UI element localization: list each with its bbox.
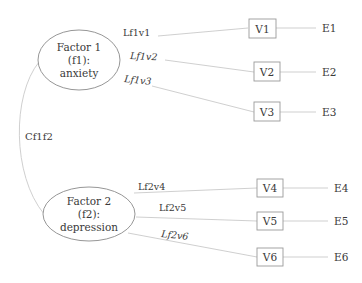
loading-edge-f2-v5 [136,217,257,221]
factor-label-line-2: (f2): [78,208,100,220]
variable-node-v4: V4 [257,179,283,197]
error-label-e5: E5 [334,215,348,227]
loading-label-f1-v2: Lf1v2 [129,50,158,62]
variable-label: V2 [259,66,274,78]
variable-node-v5: V5 [257,212,283,230]
loading-label-f2-v4: Lf2v4 [138,181,165,192]
error-label-e3: E3 [322,106,336,118]
covariance-label: Cf1f2 [25,131,53,142]
variable-label: V4 [262,182,278,194]
cfa-path-diagram: Cf1f2 Factor 1 (f1): anxiety Factor 2 (f… [0,0,362,283]
variable-label: V5 [262,215,277,227]
variable-label: V1 [254,23,269,35]
loading-edge-f1-v3 [152,86,254,112]
loading-label-f1-v3: Lf1v3 [123,73,152,87]
factor-label-line-2: (f1): [68,54,90,66]
loading-edge-f1-v1 [158,28,248,36]
loading-edge-f1-v2 [165,60,254,72]
variable-label: V6 [262,251,278,263]
factor-label-line-3: anxiety [60,67,99,79]
factor-label-line-3: depression [60,221,118,233]
factor-label-line-1: Factor 1 [57,41,101,53]
error-label-e6: E6 [334,251,349,263]
error-label-e1: E1 [322,22,336,34]
variable-node-v1: V1 [249,19,276,38]
factor-node-f1: Factor 1 (f1): anxiety [38,30,120,90]
factor-node-f2: Factor 2 (f2): depression [43,187,135,241]
variable-label: V3 [259,106,274,118]
factor-label-line-1: Factor 2 [67,195,111,207]
error-label-e4: E4 [334,182,349,194]
loading-label-f2-v5: Lf2v5 [159,202,186,213]
loading-edge-f2-v6 [128,233,257,257]
loading-label-f1-v1: Lf1v1 [123,27,150,38]
variable-node-v3: V3 [254,102,280,121]
variable-node-v2: V2 [254,62,280,81]
error-label-e2: E2 [322,66,336,78]
variable-node-v6: V6 [257,248,283,266]
